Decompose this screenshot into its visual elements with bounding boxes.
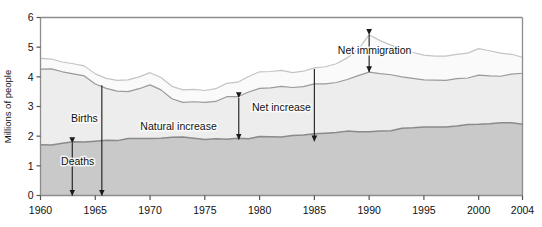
x-tick-label: 1995	[412, 204, 436, 216]
y-tick-label: 0	[28, 189, 34, 201]
y-tick-label: 6	[28, 11, 34, 23]
y-tick-label: 2	[28, 130, 34, 142]
y-axis-title: Millions of people	[2, 70, 13, 143]
y-tick-label: 3	[28, 100, 34, 112]
annotation-label-natural-increase: Natural increase	[140, 120, 217, 132]
x-tick-label: 1990	[357, 204, 381, 216]
y-tick-label: 1	[28, 160, 34, 172]
x-tick-label: 1975	[193, 204, 217, 216]
annotation-label-net-immigration: Net immigration	[338, 44, 412, 56]
annotation-label-births: Births	[71, 112, 98, 124]
x-tick-label: 1980	[248, 204, 272, 216]
y-tick-label: 5	[28, 41, 34, 53]
x-tick-label: 1960	[29, 204, 53, 216]
x-tick-label: 1965	[84, 204, 108, 216]
x-tick-label: 1985	[303, 204, 327, 216]
annotation-label-deaths: Deaths	[61, 155, 94, 167]
population-components-area-chart: 0123456196019651970197519801985199019952…	[0, 0, 542, 227]
annotation-label-net-increase: Net increase	[252, 101, 311, 113]
y-tick-label: 4	[28, 71, 34, 83]
x-tick-label: 2000	[467, 204, 491, 216]
x-tick-label: 1970	[138, 204, 162, 216]
chart-canvas: 0123456196019651970197519801985199019952…	[0, 0, 542, 227]
x-tick-label: 2004	[511, 204, 535, 216]
